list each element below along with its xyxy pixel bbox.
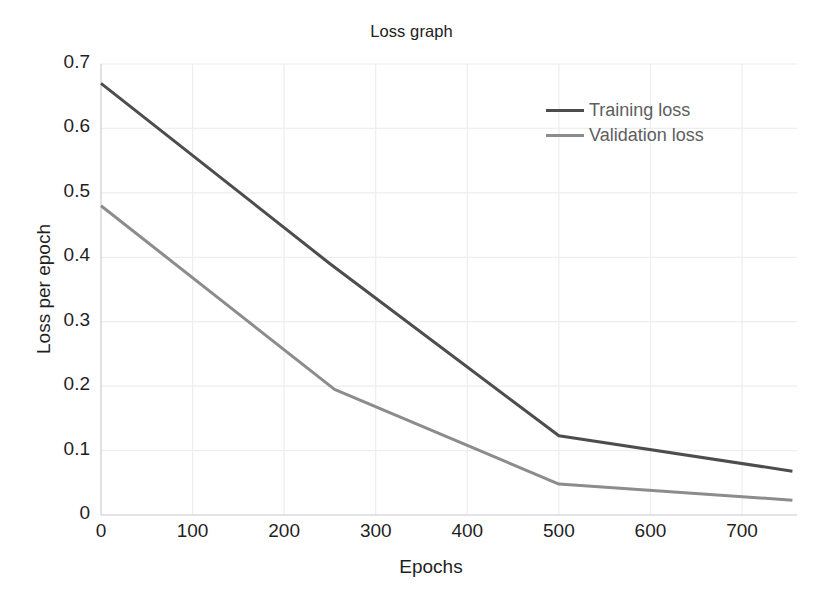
- x-tick-label: 0: [56, 520, 146, 542]
- x-tick-label: 500: [514, 520, 604, 542]
- chart-legend: Training lossValidation loss: [546, 98, 776, 148]
- x-tick-label: 100: [148, 520, 238, 542]
- x-axis-label: Epochs: [101, 556, 761, 578]
- x-tick-label: 300: [331, 520, 421, 542]
- x-tick-label: 200: [239, 520, 329, 542]
- legend-line-swatch-icon: [546, 134, 584, 137]
- legend-line-swatch-icon: [546, 109, 584, 112]
- legend-item-training-loss: Training loss: [546, 98, 776, 123]
- x-tick-label: 600: [605, 520, 695, 542]
- x-tick-label: 700: [697, 520, 787, 542]
- x-axis-tick-labels: 0100200300400500600700: [0, 0, 823, 605]
- legend-label: Training loss: [589, 100, 690, 121]
- legend-item-validation-loss: Validation loss: [546, 123, 776, 148]
- loss-graph-figure: Loss graph 00.10.20.30.40.50.60.7 010020…: [0, 0, 823, 605]
- x-tick-label: 400: [422, 520, 512, 542]
- legend-label: Validation loss: [589, 125, 704, 146]
- y-axis-label: Loss per epoch: [33, 159, 55, 419]
